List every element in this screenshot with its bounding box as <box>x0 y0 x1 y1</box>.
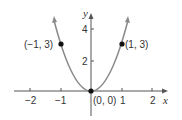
x-tick-neg1: −1 <box>55 95 67 106</box>
point-1-3 <box>119 41 124 46</box>
parabola-graph: −2 −1 1 2 2 4 x y (−1, 3) (0, 0) (1, 3) <box>0 0 182 120</box>
x-tick-2: 2 <box>150 95 156 106</box>
y-tick-4: 4 <box>82 24 88 35</box>
point-label-origin: (0, 0) <box>93 95 116 106</box>
x-axis-label: x <box>162 94 168 106</box>
y-axis-label: y <box>82 7 88 19</box>
point-label-neg1-3: (−1, 3) <box>24 39 53 50</box>
x-tick-1: 1 <box>120 95 126 106</box>
point-neg1-3 <box>58 41 63 46</box>
x-tick-neg2: −2 <box>25 95 37 106</box>
point-origin <box>88 88 93 93</box>
y-tick-2: 2 <box>82 56 88 67</box>
curve-arrow-right-icon <box>125 16 130 23</box>
curve-arrow-left-icon <box>52 16 57 23</box>
point-label-1-3: (1, 3) <box>125 39 148 50</box>
